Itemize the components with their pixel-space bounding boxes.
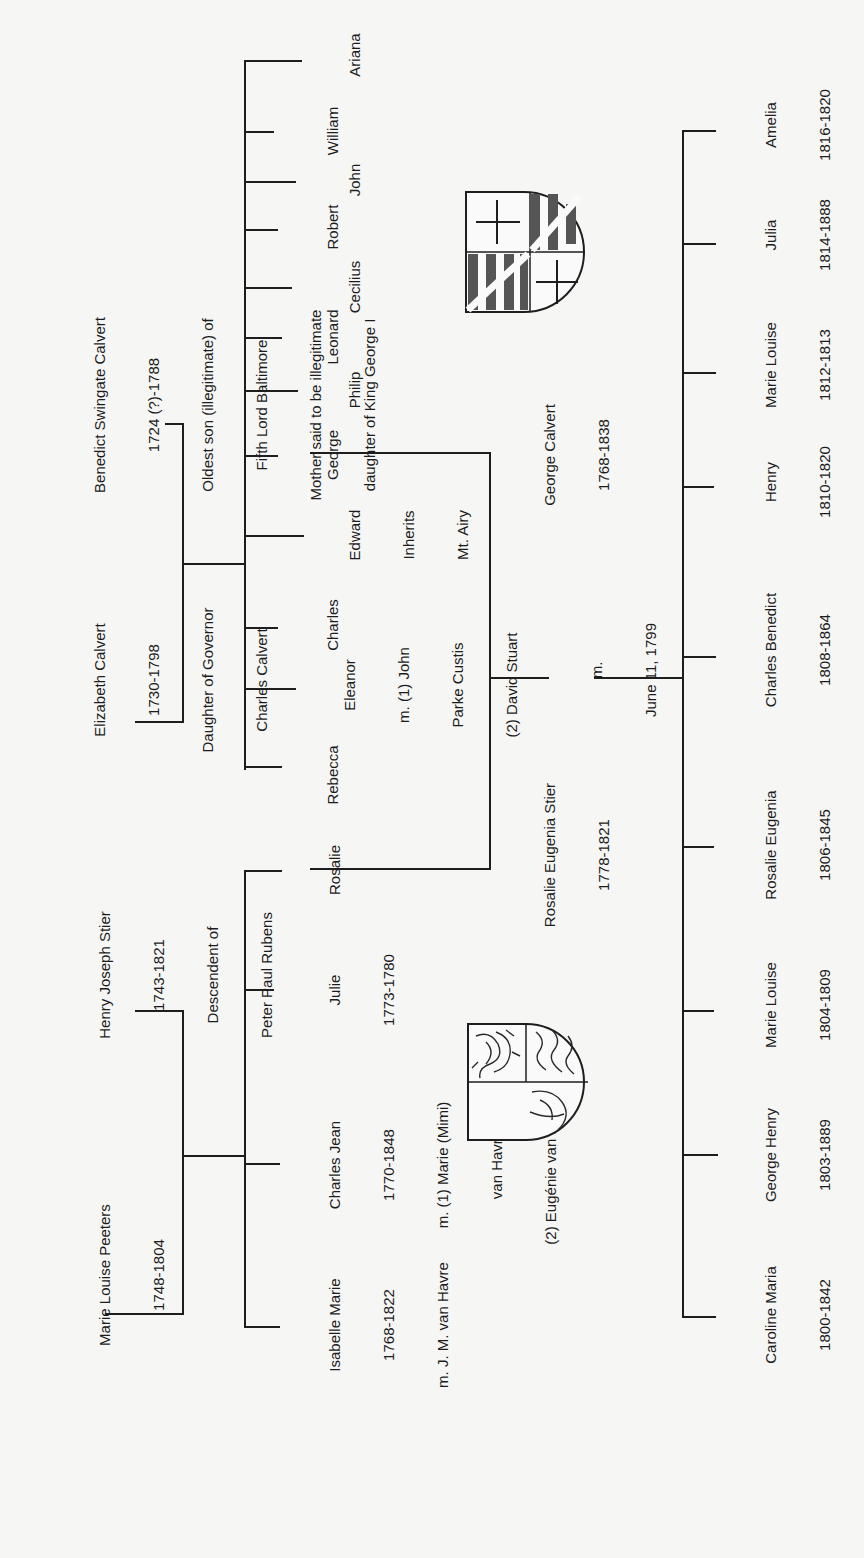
tick-charles-jean [244, 1163, 280, 1165]
stier-coat-of-arms-icon [466, 1022, 590, 1142]
grandchildren-bar [682, 130, 684, 1318]
person-ariana: Ariana [310, 20, 400, 90]
person-rebecca: Rebecca [288, 735, 378, 815]
tick-caroline-maria [682, 1316, 716, 1318]
tick-charles [244, 627, 278, 629]
calvert-coat-of-arms-icon [464, 190, 588, 314]
tick-charles-benedict [682, 656, 716, 658]
tick-robert [244, 229, 278, 231]
person-charles-benedict: Charles Benedict 1808-1864 m. Charlotte … [726, 580, 864, 720]
tick-rosalie [244, 870, 282, 872]
connector-marriage-right [594, 677, 684, 679]
tick-eleanor [244, 688, 296, 690]
marriage-date: m. June 11, 1799 [552, 615, 696, 725]
person-george: George [288, 420, 378, 490]
tick-amelia [682, 130, 716, 132]
person-george-calvert: George Calvert 1768-1838 [505, 380, 649, 530]
person-henry: Henry 1810-1820 [726, 437, 864, 527]
connector-calvert-children [182, 563, 246, 565]
connector-george-marriage [310, 452, 490, 454]
tick-henry [682, 486, 714, 488]
tick-john [244, 181, 296, 183]
tick-marie-louise-1804 [682, 1010, 714, 1012]
person-caroline-maria: Caroline Maria 1800-1842 m. Thomas Morri… [726, 1240, 864, 1390]
person-george-henry: George Henry 1803-1889 m. Elizabeth Steu… [726, 1090, 864, 1220]
connector-calvert-couple [182, 423, 184, 723]
connector-benedict [165, 423, 183, 425]
stier-siblings-bar [244, 870, 246, 1328]
calvert-siblings-bar [244, 60, 246, 770]
person-marie-louise-1812: Marie Louise 1812-1813 [726, 315, 864, 415]
marriage-bar [489, 452, 491, 870]
tick-rebecca [244, 766, 282, 768]
connector-rosalie-marriage [310, 868, 490, 870]
tick-george [244, 455, 278, 457]
tick-william [244, 131, 274, 133]
connector-marriage-left [489, 677, 549, 679]
connector-stier-couple [182, 1010, 184, 1315]
tick-julie [244, 989, 274, 991]
connector-peeters [105, 1313, 183, 1315]
person-charles: Charles [288, 585, 378, 665]
connector-elizabeth [135, 721, 183, 723]
tick-george-henry [682, 1154, 718, 1156]
tick-rosalie-eugenia [682, 846, 714, 848]
person-rosalie: Rosalie [290, 830, 380, 910]
connector-stier-children [182, 1155, 246, 1157]
tick-cecilius [244, 287, 292, 289]
family-tree-page: Marie Louise Peeters 1748-1804 Henry Jos… [0, 0, 864, 1558]
connector-stier [135, 1010, 183, 1012]
person-henry-joseph-stier: Henry Joseph Stier 1743-1821 Descendent … [60, 865, 312, 1085]
tick-philip [244, 390, 298, 392]
person-william: William [288, 96, 378, 166]
tick-edward [244, 535, 304, 537]
person-rosalie-eugenia-calvert: Rosalie Eugenia 1806-1845 m. Charles Car… [726, 780, 864, 910]
person-julie: Julie 1773-1780 [290, 930, 434, 1050]
person-julia: Julia 1814-1888 m. Richard Stuart [726, 170, 864, 300]
tick-julia [682, 243, 716, 245]
person-edward: Edward Inherits Mt. Airy [310, 495, 508, 575]
tick-leonard [244, 337, 282, 339]
person-marie-louise-1804: Marie Louise 1804-1809 [726, 950, 864, 1060]
tick-isabelle [244, 1326, 280, 1328]
person-rosalie-eugenia-stier: Rosalie Eugenia Stier 1778-1821 [505, 765, 649, 945]
tick-marie-louise-1812 [682, 372, 716, 374]
person-amelia: Amelia 1816-1820 [726, 80, 864, 170]
tick-ariana [244, 60, 302, 62]
